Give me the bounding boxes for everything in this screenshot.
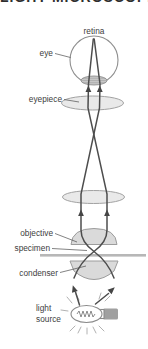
bulb-ray-left: [76, 292, 80, 305]
label-light-source-line1: light: [36, 303, 52, 313]
eyepiece-lens: [62, 96, 124, 110]
arrowhead-icon: [70, 284, 78, 292]
tube-lens: [63, 191, 125, 204]
arrowhead-icon: [97, 85, 103, 92]
label-condenser: condenser: [19, 268, 58, 278]
light-bulb: [71, 306, 118, 323]
microscope-ray-diagram: LIGHT MICROSCOPE: [0, 0, 148, 349]
arrowhead-icon: [108, 285, 117, 294]
bulb-glass: [71, 306, 102, 323]
bulb-base: [103, 309, 118, 320]
objective-lens: [71, 229, 117, 245]
label-light-source-line2: source: [36, 314, 61, 324]
label-specimen: specimen: [14, 243, 50, 253]
diagram-canvas: retina eye eyepiece objective specimen c…: [0, 0, 148, 349]
label-retina: retina: [84, 26, 105, 36]
arrowhead-icon: [104, 209, 110, 216]
arrowhead-icon: [78, 209, 84, 216]
label-objective: objective: [20, 228, 53, 238]
specimen-slide: [40, 254, 146, 257]
label-eye: eye: [40, 48, 54, 58]
leader-line-eye: [55, 54, 71, 58]
label-eyepiece: eyepiece: [29, 94, 63, 104]
arrowhead-icon: [86, 85, 92, 92]
leader-line-specimen: [52, 249, 87, 251]
